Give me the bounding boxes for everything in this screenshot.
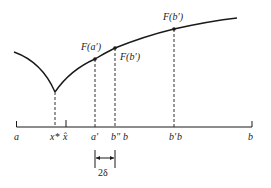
diagram-canvas: F(a′) F(b′) F(b′) a x* x̂ a′ b″ b b′ b b… xyxy=(0,0,271,188)
point-f-a-prime xyxy=(93,57,97,61)
point-f-b-double-prime xyxy=(113,46,117,50)
function-curve-right xyxy=(55,18,237,92)
point-f-b-prime xyxy=(172,27,176,31)
axis-label-x-hat: x̂ xyxy=(62,131,68,142)
axis-label-b-prime: b′ xyxy=(169,131,177,142)
arrowhead-left-icon xyxy=(96,156,100,160)
interval-label-2delta: 2δ xyxy=(98,167,108,178)
function-curve-left xyxy=(14,52,55,92)
axis-label-b-double-prime: b″ xyxy=(111,131,121,142)
axis-label-a-prime: a′ xyxy=(91,131,99,142)
axis-label-b: b xyxy=(123,131,128,142)
axis-label-end: b xyxy=(248,131,253,142)
label-f-a-prime: F(a′) xyxy=(80,41,102,53)
arrowhead-right-icon xyxy=(110,156,114,160)
axis-label-x-star: x* xyxy=(49,131,59,142)
axis-label-a: a xyxy=(14,131,19,142)
axis-label-beta: b xyxy=(177,131,182,142)
label-f-b-double-prime: F(b′) xyxy=(119,51,141,63)
label-f-b-prime: F(b′) xyxy=(162,11,184,23)
